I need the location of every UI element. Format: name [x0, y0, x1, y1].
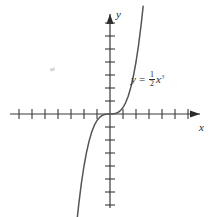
fraction-numerator: 1 [149, 71, 155, 79]
equation-exponent: 3 [161, 73, 165, 81]
equation-annotation: y=12x3 [131, 71, 165, 89]
fraction-denominator: 2 [149, 79, 155, 88]
equation-y-symbol: y [131, 73, 136, 85]
x-axis-arrowhead [190, 110, 200, 117]
x-axis-label: x [199, 122, 204, 133]
graph-figure: y x y=12x3 [0, 0, 216, 217]
one-half-fraction: 12 [149, 71, 155, 89]
y-axis-label: y [116, 9, 121, 20]
equation-equals-sign: = [139, 73, 145, 85]
coordinate-plane [0, 0, 216, 217]
